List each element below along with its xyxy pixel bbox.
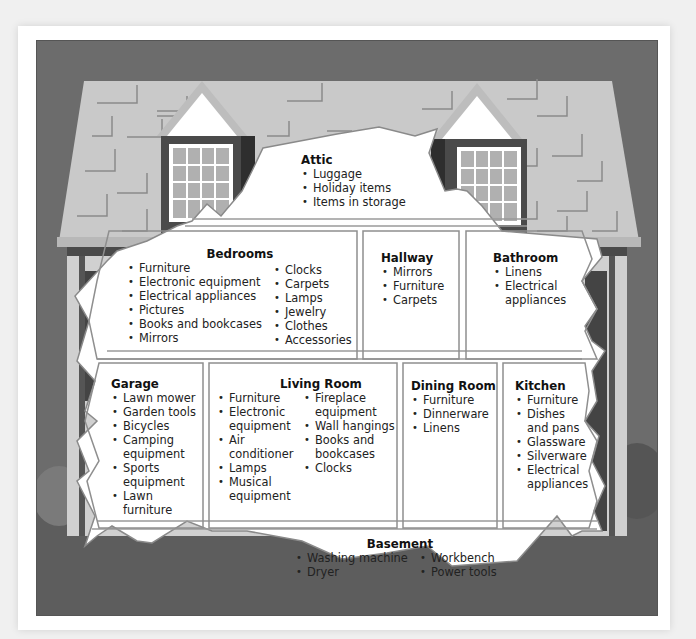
list-item: Furniture	[381, 279, 459, 293]
room-title: Attic	[301, 153, 441, 167]
item-list: Workbench Power tools	[419, 551, 497, 579]
house-cutaway-illustration: Attic Luggage Holiday items Items in sto…	[36, 40, 658, 616]
list-item: Pictures	[127, 303, 267, 317]
item-list: Washing machine Dryer	[295, 551, 413, 579]
room-dining-room: Dining Room Furniture Dinnerware Linens	[411, 379, 497, 435]
list-item: Wall hangings	[303, 419, 395, 433]
list-item: Electrical appliances	[493, 279, 579, 307]
list-item: Luggage	[301, 167, 441, 181]
room-title: Dining Room	[411, 379, 497, 393]
list-item: Linens	[411, 421, 497, 435]
room-basement: Basement Washing machine Dryer Workbench…	[295, 537, 505, 579]
list-item: Camping equipment	[111, 433, 203, 461]
item-list: Mirrors Furniture Carpets	[381, 265, 459, 307]
list-item: Mirrors	[381, 265, 459, 279]
list-item: Lawn furniture	[111, 489, 203, 517]
list-item: Garden tools	[111, 405, 203, 419]
list-item: Furniture	[217, 391, 297, 405]
room-title: Hallway	[381, 251, 459, 265]
list-item: Lawn mower	[111, 391, 203, 405]
list-item: Carpets	[381, 293, 459, 307]
list-item: Lamps	[217, 461, 297, 475]
list-item: Jewelry	[273, 305, 352, 319]
list-item: Electrical appliances	[127, 289, 267, 303]
list-item: Furniture	[127, 261, 267, 275]
list-item: Clocks	[303, 461, 395, 475]
item-list: Linens Electrical appliances	[493, 265, 579, 307]
room-kitchen: Kitchen Furniture Dishes and pans Glassw…	[515, 379, 587, 491]
item-list: Clocks Carpets Lamps Jewelry Clothes Acc…	[273, 263, 352, 347]
list-item: Furniture	[515, 393, 587, 407]
room-garage: Garage Lawn mower Garden tools Bicycles …	[111, 377, 203, 517]
list-item: Electronic equipment	[127, 275, 267, 289]
list-item: Books and bookcases	[303, 433, 395, 461]
room-attic: Attic Luggage Holiday items Items in sto…	[301, 153, 441, 209]
list-item: Electronic equipment	[217, 405, 297, 433]
list-item: Dryer	[295, 565, 413, 579]
item-list: Furniture Electronic equipment Air condi…	[217, 391, 297, 503]
list-item: Dinnerware	[411, 407, 497, 421]
list-item: Clothes	[273, 319, 352, 333]
room-living-room: Living Room Furniture Electronic equipme…	[217, 377, 395, 503]
list-item: Dishes and pans	[515, 407, 587, 435]
list-item: Accessories	[273, 333, 352, 347]
list-item: Clocks	[273, 263, 352, 277]
list-item: Workbench	[419, 551, 497, 565]
item-list: Luggage Holiday items Items in storage	[301, 167, 441, 209]
list-item: Bicycles	[111, 419, 203, 433]
list-item: Musical equipment	[217, 475, 297, 503]
room-title: Bathroom	[493, 251, 579, 265]
item-list: Furniture Dinnerware Linens	[411, 393, 497, 435]
list-item: Holiday items	[301, 181, 441, 195]
item-list: Lawn mower Garden tools Bicycles Camping…	[111, 391, 203, 517]
room-title: Basement	[295, 537, 505, 551]
list-item: Books and bookcases	[127, 317, 267, 331]
item-list: Fireplace equipment Wall hangings Books …	[303, 391, 395, 503]
room-hallway: Hallway Mirrors Furniture Carpets	[381, 251, 459, 307]
room-title: Bedrooms	[127, 247, 353, 261]
item-list: Furniture Dishes and pans Glassware Silv…	[515, 393, 587, 491]
list-item: Sports equipment	[111, 461, 203, 489]
room-title: Kitchen	[515, 379, 587, 393]
list-item: Air conditioner	[217, 433, 297, 461]
list-item: Furniture	[411, 393, 497, 407]
room-title: Living Room	[217, 377, 395, 391]
list-item: Linens	[493, 265, 579, 279]
list-item: Lamps	[273, 291, 352, 305]
list-item: Washing machine	[295, 551, 413, 565]
list-item: Power tools	[419, 565, 497, 579]
list-item: Carpets	[273, 277, 352, 291]
item-list: Furniture Electronic equipment Electrica…	[127, 261, 267, 347]
list-item: Electrical appliances	[515, 463, 587, 491]
room-bathroom: Bathroom Linens Electrical appliances	[493, 251, 579, 307]
list-item: Glassware	[515, 435, 587, 449]
list-item: Fireplace equipment	[303, 391, 395, 419]
list-item: Items in storage	[301, 195, 441, 209]
room-bedrooms: Bedrooms Furniture Electronic equipment …	[127, 247, 353, 347]
list-item: Silverware	[515, 449, 587, 463]
room-title: Garage	[111, 377, 203, 391]
list-item: Mirrors	[127, 331, 267, 345]
